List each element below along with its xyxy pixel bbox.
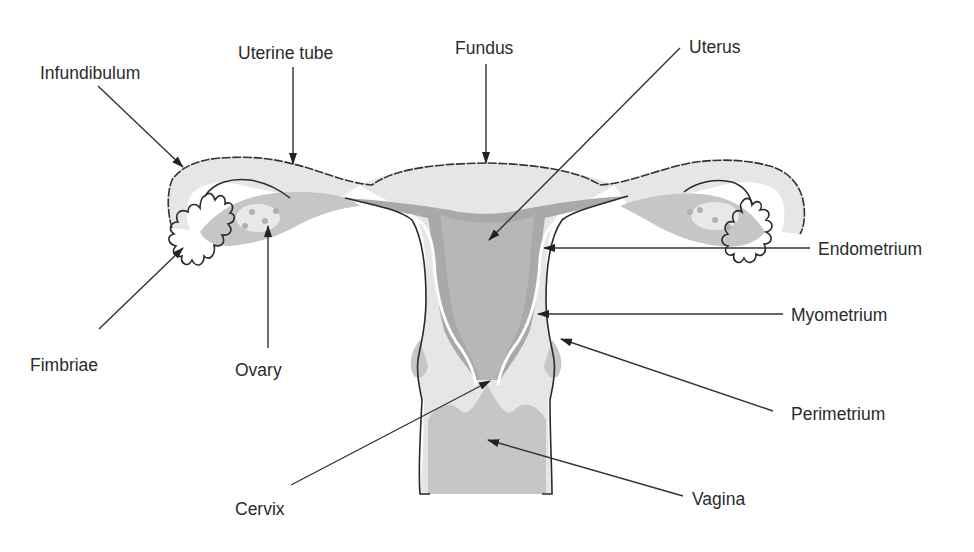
- label-text-uterine-tube: Uterine tube: [238, 43, 333, 63]
- uterus-anatomy-diagram: Infundibulum Uterine tube Fundus Uterus …: [0, 0, 974, 552]
- label-text-vagina: Vagina: [692, 489, 745, 509]
- anatomy-illustration: [168, 157, 804, 494]
- label-ovary: Ovary: [235, 226, 282, 380]
- label-text-fundus: Fundus: [455, 38, 514, 58]
- label-fimbriae: Fimbriae: [30, 248, 183, 375]
- label-text-endometrium: Endometrium: [818, 239, 922, 259]
- label-text-uterus: Uterus: [689, 37, 741, 57]
- label-uterine-tube: Uterine tube: [238, 43, 333, 164]
- label-text-infundibulum: Infundibulum: [40, 63, 140, 83]
- arrow-perimetrium: [561, 339, 773, 411]
- label-text-cervix: Cervix: [235, 499, 285, 519]
- label-fundus: Fundus: [455, 38, 514, 163]
- label-text-ovary: Ovary: [235, 360, 282, 380]
- left-ovary-follicles: [236, 204, 280, 232]
- label-infundibulum: Infundibulum: [40, 63, 183, 167]
- label-myometrium: Myometrium: [538, 305, 887, 325]
- arrow-fimbriae: [99, 248, 183, 329]
- label-text-perimetrium: Perimetrium: [791, 404, 885, 424]
- label-perimetrium: Perimetrium: [561, 339, 885, 424]
- label-text-fimbriae: Fimbriae: [30, 355, 98, 375]
- label-text-myometrium: Myometrium: [791, 305, 887, 325]
- arrow-infundibulum: [98, 86, 183, 167]
